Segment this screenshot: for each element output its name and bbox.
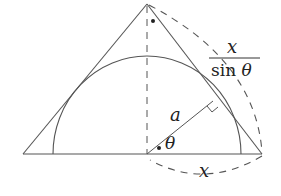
diagram-canvas: x sin θ a θ x	[0, 0, 281, 196]
theta-denominator: θ	[242, 60, 252, 80]
apex-angle-dot	[151, 19, 155, 23]
angle-label: θ	[165, 135, 175, 152]
center-angle-dot	[157, 146, 161, 150]
triangle-left-side	[23, 4, 147, 154]
fraction-numerator: x	[227, 38, 237, 56]
sin-function: sin	[211, 60, 236, 80]
radius-label: a	[170, 106, 181, 124]
right-angle-marker	[207, 106, 218, 112]
fraction-denominator: sin θ	[211, 62, 252, 79]
base-length-label: x	[199, 162, 209, 180]
geometry-figure	[0, 0, 281, 196]
